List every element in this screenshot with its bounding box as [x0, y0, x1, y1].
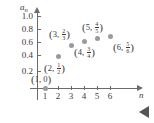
label-n-value: 2	[48, 63, 52, 73]
data-point	[43, 86, 48, 91]
data-point-label-1: (1, 0)	[31, 74, 51, 85]
fraction-numerator: 4	[95, 21, 99, 28]
label-fraction: 23	[62, 28, 66, 42]
previous-triangle-icon[interactable]	[139, 106, 149, 118]
x-tick-label: 2	[52, 91, 64, 101]
data-point-label-4: (4, 34)	[74, 46, 95, 60]
label-close-paren: )	[91, 46, 95, 58]
data-point-label-5: (5, 45)	[82, 21, 103, 35]
fraction-denominator: 5	[95, 28, 99, 34]
fraction-numerator: 1	[57, 62, 61, 69]
y-tick-mark	[37, 71, 41, 72]
x-tick-mark	[97, 86, 98, 90]
label-fraction: 56	[126, 41, 130, 55]
data-point	[82, 39, 87, 44]
label-close-paren: )	[99, 21, 103, 33]
x-axis-title: n	[139, 90, 144, 100]
data-point-label-6: (6, 56)	[113, 41, 134, 55]
data-point	[108, 34, 113, 39]
label-close-paren: )	[66, 28, 70, 40]
label-n-value: 6	[117, 42, 121, 52]
y-tick-mark	[37, 29, 41, 30]
y-tick-mark	[37, 16, 41, 17]
y-axis-arrow-icon	[34, 7, 40, 13]
y-axis-line	[37, 12, 38, 100]
data-point-label-3: (3, 23)	[49, 28, 70, 42]
label-n-value: 4	[78, 47, 82, 57]
label-close-paren: )	[130, 41, 134, 53]
x-tick-mark	[58, 86, 59, 90]
y-tick-mark	[37, 42, 41, 43]
x-tick-mark	[84, 86, 85, 90]
fraction-denominator: 3	[62, 35, 66, 41]
label-n-value: 1	[35, 74, 39, 84]
fraction-denominator: 6	[126, 48, 130, 54]
x-tick-mark	[71, 86, 72, 90]
y-tick-label: 0.6	[14, 37, 33, 47]
data-point	[56, 54, 61, 59]
label-n-value: 3	[53, 29, 57, 39]
x-tick-mark	[110, 86, 111, 90]
label-fraction: 34	[87, 46, 91, 60]
x-tick-label: 4	[78, 91, 90, 101]
x-tick-label: 5	[91, 91, 103, 101]
y-tick-label: 1.0	[14, 11, 33, 21]
fraction-denominator: 4	[87, 53, 91, 59]
x-tick-label: 1	[39, 91, 51, 101]
sequence-scatter-plot-figure: an n 0.2 0.4 0.6 0.8 1.0 1 2 3 4 5 6 (1,…	[0, 0, 154, 123]
y-tick-label: 0.8	[14, 24, 33, 34]
data-point	[95, 36, 100, 41]
fraction-numerator: 5	[126, 41, 130, 48]
data-point-label-2: (2, 12)	[44, 62, 65, 76]
y-tick-label: 0.4	[14, 50, 33, 60]
label-n-value: 5	[86, 22, 90, 32]
label-close-paren: )	[61, 62, 65, 74]
label-fraction: 45	[95, 21, 99, 35]
fraction-denominator: 2	[57, 69, 61, 75]
x-tick-label: 3	[65, 91, 77, 101]
label-fraction: 12	[57, 62, 61, 76]
fraction-numerator: 3	[87, 46, 91, 53]
fraction-numerator: 2	[62, 28, 66, 35]
data-point	[69, 43, 74, 48]
y-tick-mark	[37, 55, 41, 56]
x-tick-label: 6	[104, 91, 116, 101]
